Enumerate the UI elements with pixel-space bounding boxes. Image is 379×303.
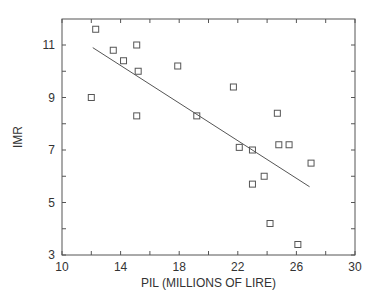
data-point-marker — [121, 58, 127, 64]
data-point-marker — [135, 68, 141, 74]
tick-labels: 101418222630357911 — [43, 38, 362, 274]
x-tick-label: 22 — [231, 260, 245, 274]
x-tick-label: 14 — [114, 260, 128, 274]
x-tick-label: 26 — [290, 260, 304, 274]
plot-frame — [62, 19, 355, 255]
x-axis-title: PIL (MILLIONS OF LIRE) — [141, 276, 276, 290]
y-tick-label: 9 — [48, 91, 55, 105]
y-axis-title: IMR — [11, 126, 25, 148]
data-point-marker — [88, 95, 94, 101]
y-tick-label: 7 — [48, 143, 55, 157]
y-tick-label: 3 — [48, 248, 55, 262]
data-point-marker — [236, 144, 242, 150]
data-point-marker — [274, 110, 280, 116]
data-point-marker — [295, 242, 301, 248]
data-point-marker — [134, 42, 140, 48]
y-tick-label: 5 — [48, 196, 55, 210]
data-point-marker — [93, 26, 99, 32]
data-point-marker — [286, 142, 292, 148]
axis-ticks — [62, 19, 355, 255]
data-point-marker — [261, 173, 267, 179]
data-point-marker — [267, 221, 273, 227]
data-point-marker — [249, 181, 255, 187]
data-point-marker — [134, 113, 140, 119]
x-tick-label: 30 — [348, 260, 362, 274]
data-point-marker — [175, 63, 181, 69]
scatter-chart: 101418222630357911 PIL (MILLIONS OF LIRE… — [0, 0, 379, 303]
x-tick-label: 10 — [55, 260, 69, 274]
data-point-marker — [230, 84, 236, 90]
data-points — [88, 26, 314, 247]
data-point-marker — [110, 47, 116, 53]
data-point-marker — [308, 160, 314, 166]
data-point-marker — [276, 142, 282, 148]
x-tick-label: 18 — [173, 260, 187, 274]
y-tick-label: 11 — [43, 38, 56, 52]
regression-line — [93, 48, 310, 187]
